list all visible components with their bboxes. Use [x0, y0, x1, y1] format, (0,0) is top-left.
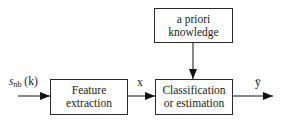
- classify-line-2: or estimation: [162, 97, 225, 110]
- connector-layer: [0, 0, 285, 122]
- prior-knowledge-block: a priori knowledge: [154, 8, 233, 43]
- output-label: ȳ: [255, 76, 261, 88]
- feature-extraction-block: Feature extraction: [50, 79, 128, 115]
- input-signal-label: snb (k): [9, 75, 38, 91]
- feature-vector-label: x: [137, 76, 143, 88]
- classification-block: Classification or estimation: [155, 79, 233, 115]
- feature-line-2: extraction: [66, 97, 112, 110]
- classify-line-1: Classification: [162, 84, 225, 97]
- feature-line-1: Feature: [66, 84, 112, 97]
- prior-line-1: a priori: [168, 13, 218, 26]
- prior-line-2: knowledge: [168, 26, 218, 39]
